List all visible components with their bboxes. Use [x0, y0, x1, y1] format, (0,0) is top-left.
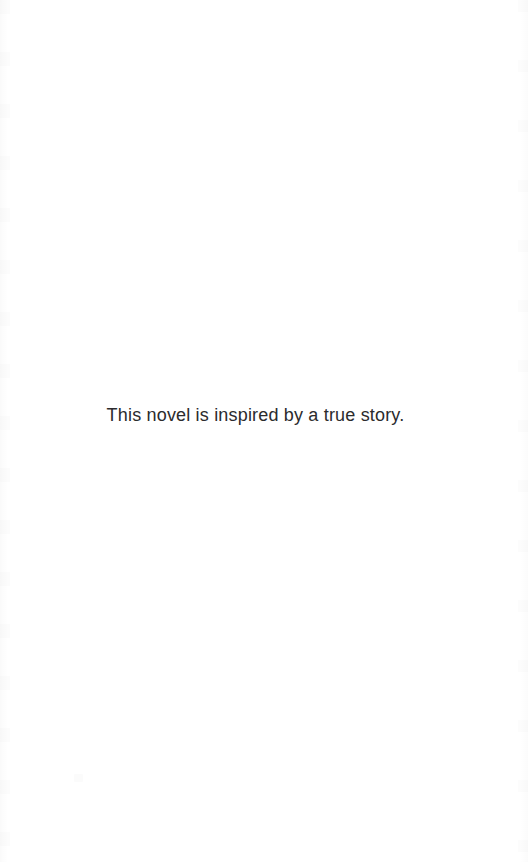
epigraph-block: This novel is inspired by a true story. — [0, 403, 528, 427]
scan-edge-left-artifact — [0, 0, 10, 862]
book-page: This novel is inspired by a true story. — [0, 0, 528, 862]
epigraph-text: This novel is inspired by a true story. — [107, 403, 405, 427]
scan-edge-right-artifact — [518, 0, 528, 862]
scan-speck-artifact — [74, 774, 83, 782]
